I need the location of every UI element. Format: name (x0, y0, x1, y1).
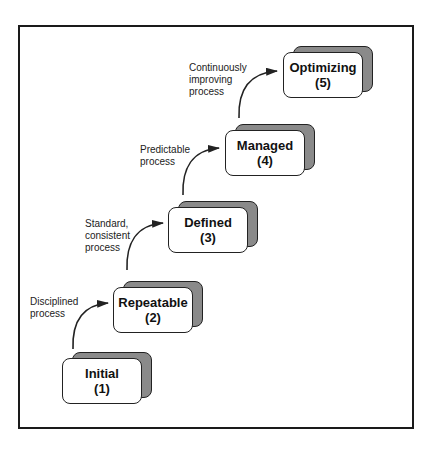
stage-name: Optimizing (289, 60, 356, 75)
stage-box: Optimizing (5) (283, 52, 363, 98)
stage-box: Managed (4) (225, 130, 305, 176)
stage-level: (2) (145, 310, 161, 325)
stage-name: Initial (85, 366, 119, 381)
stage-initial: Initial (1) (62, 358, 144, 405)
stage-defined: Defined (3) (168, 207, 250, 254)
stage-name: Defined (184, 215, 232, 230)
stage-level: (4) (257, 153, 273, 168)
stage-optimizing: Optimizing (5) (283, 52, 365, 99)
transition-label-standard: Standard, consistent process (85, 218, 130, 254)
stage-box: Repeatable (2) (113, 287, 193, 333)
transition-label-disciplined: Disciplined process (30, 296, 78, 320)
stage-box: Initial (1) (62, 358, 142, 404)
stage-level: (5) (315, 75, 331, 90)
stage-level: (3) (200, 230, 216, 245)
stage-name: Repeatable (118, 295, 187, 310)
stage-box: Defined (3) (168, 207, 248, 253)
stage-repeatable: Repeatable (2) (113, 287, 195, 334)
stage-name: Managed (237, 138, 293, 153)
stage-level: (1) (94, 381, 110, 396)
transition-label-predictable: Predictable process (140, 144, 190, 168)
transition-label-continuously: Continuously improving process (189, 62, 247, 98)
stage-managed: Managed (4) (225, 130, 307, 177)
